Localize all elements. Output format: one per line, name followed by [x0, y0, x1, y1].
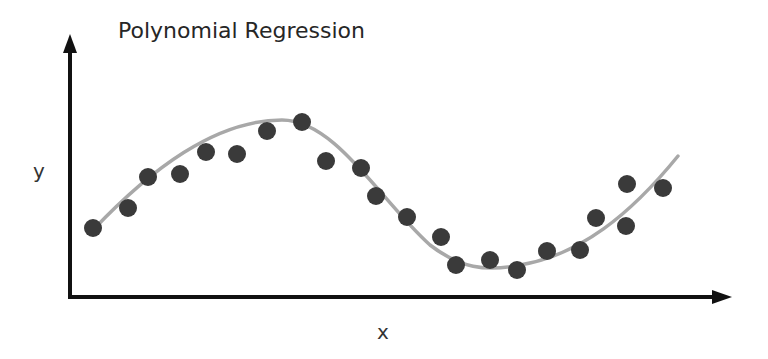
data-point [538, 242, 556, 260]
x-axis-label: x [377, 320, 389, 344]
chart-title: Polynomial Regression [118, 18, 365, 43]
x-axis [68, 290, 732, 304]
data-point [398, 208, 416, 226]
data-point [139, 168, 157, 186]
data-point [293, 113, 311, 131]
data-point [352, 159, 370, 177]
data-point [617, 217, 635, 235]
data-point [171, 165, 189, 183]
data-point [447, 256, 465, 274]
polynomial-regression-chart: Polynomial Regression y x [0, 0, 768, 359]
data-point [508, 261, 526, 279]
y-axis-arrow-icon [63, 34, 77, 53]
data-point [258, 122, 276, 140]
data-point [317, 152, 335, 170]
data-point [197, 143, 215, 161]
data-point [432, 228, 450, 246]
x-axis-arrow-icon [712, 290, 732, 304]
data-point [119, 199, 137, 217]
data-point [84, 219, 102, 237]
data-point [618, 175, 636, 193]
data-point [228, 145, 246, 163]
data-point [587, 209, 605, 227]
data-point [481, 251, 499, 269]
y-axis-label: y [33, 159, 45, 183]
regression-curve [93, 120, 678, 268]
data-point [571, 241, 589, 259]
data-point [367, 187, 385, 205]
data-points [84, 113, 672, 279]
y-axis [63, 34, 77, 299]
data-point [654, 179, 672, 197]
